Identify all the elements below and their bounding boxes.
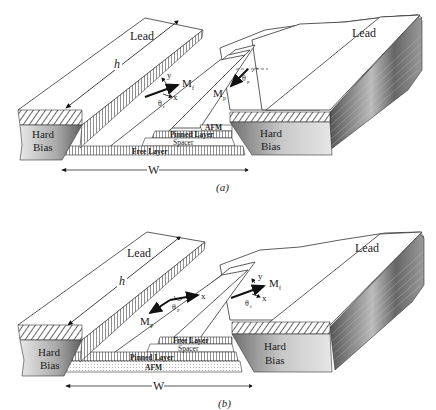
- layer-label-b-afm: AFM: [145, 363, 162, 372]
- svg-text:x: x: [262, 293, 267, 303]
- panel-b: h Lead Lead Hard Bias Hard Bias Free Lay…: [18, 232, 424, 410]
- caption-b: (b): [218, 397, 231, 410]
- svg-text:P: P: [177, 308, 180, 313]
- svg-text:x: x: [173, 92, 178, 102]
- right-bias-label-a-1: Hard: [260, 127, 282, 139]
- svg-text:θ: θ: [172, 303, 176, 312]
- right-lead-b: [220, 232, 424, 372]
- svg-text:f: f: [279, 285, 281, 291]
- svg-text:p: p: [223, 95, 226, 101]
- layer-label-a-spacer: Spacer: [173, 138, 194, 147]
- svg-text:f: f: [192, 85, 194, 91]
- width-label-b: W: [153, 379, 165, 393]
- right-lead-label-b: Lead: [355, 241, 379, 255]
- left-lead-label-b: Lead: [127, 246, 151, 260]
- right-bias-label-b-1: Hard: [264, 340, 286, 352]
- right-bias-label-b-2: Bias: [265, 354, 285, 366]
- svg-text:y: y: [167, 70, 172, 80]
- right-bias-label-a-2: Bias: [261, 140, 281, 152]
- left-bias-label-a-1: Hard: [32, 128, 54, 140]
- svg-text:M: M: [182, 77, 192, 89]
- height-label-a: h: [114, 57, 120, 71]
- panel-a: h Lead Lead Hard Bias Hard Bias AFM Pinn…: [18, 15, 422, 194]
- width-label-a: W: [148, 163, 160, 177]
- spin-valve-diagram: h Lead Lead Hard Bias Hard Bias AFM Pinn…: [0, 0, 436, 410]
- right-lead-a: [220, 15, 422, 155]
- svg-text:M: M: [213, 87, 223, 99]
- svg-text:θ: θ: [158, 99, 162, 108]
- caption-a: (a): [216, 181, 229, 194]
- layer-label-a-free: Free Layer: [132, 147, 168, 156]
- svg-text:x: x: [201, 291, 206, 301]
- svg-text:M: M: [140, 315, 150, 327]
- svg-text:y: y: [258, 271, 263, 281]
- layer-label-b-pinned: Pinned Layer: [130, 353, 174, 362]
- left-bias-label-a-2: Bias: [33, 141, 53, 153]
- right-lead-label-a: Lead: [352, 26, 376, 40]
- svg-text:θ: θ: [245, 299, 249, 308]
- left-bias-label-b-2: Bias: [40, 359, 60, 371]
- layer-label-b-spacer: Spacer: [178, 344, 199, 353]
- height-label-b: h: [119, 274, 125, 288]
- svg-text:θ: θ: [242, 74, 246, 83]
- left-lead-label-a: Lead: [130, 29, 154, 43]
- left-bias-label-b-1: Hard: [38, 346, 60, 358]
- svg-text:M: M: [269, 277, 279, 289]
